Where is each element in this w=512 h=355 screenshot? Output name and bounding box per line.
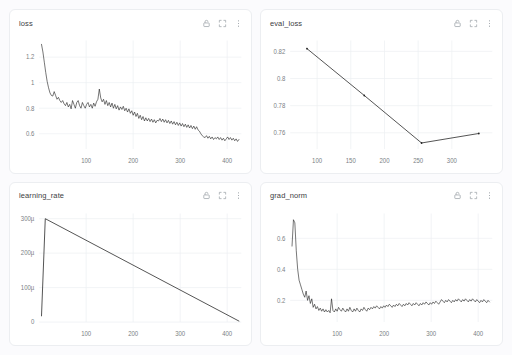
panel-grid: loss (0, 0, 512, 355)
expand-icon[interactable] (217, 190, 228, 201)
panel-header: eval_loss (261, 10, 502, 32)
svg-text:400: 400 (473, 329, 483, 336)
panel-actions (201, 18, 244, 29)
svg-text:300: 300 (447, 157, 457, 164)
svg-text:0: 0 (31, 318, 35, 325)
svg-text:0.6: 0.6 (277, 234, 286, 241)
panel-title: eval_loss (270, 19, 302, 28)
metrics-dashboard: loss (0, 0, 512, 355)
svg-text:300µ: 300µ (21, 214, 35, 222)
panel-header: grad_norm (261, 183, 502, 205)
panel-actions (452, 190, 495, 201)
panel-header: learning_rate (10, 183, 251, 205)
svg-text:200: 200 (128, 157, 138, 164)
more-vertical-icon[interactable] (484, 190, 495, 201)
svg-text:0.78: 0.78 (274, 102, 286, 109)
panel-title: learning_rate (19, 191, 64, 200)
svg-text:300: 300 (175, 157, 185, 164)
svg-text:0.8: 0.8 (277, 75, 286, 82)
panel-actions (452, 18, 495, 29)
svg-text:300: 300 (175, 329, 185, 336)
panel-loss[interactable]: loss (9, 9, 252, 174)
panel-title: grad_norm (270, 191, 307, 200)
expand-icon[interactable] (468, 190, 479, 201)
expand-icon[interactable] (217, 18, 228, 29)
more-vertical-icon[interactable] (233, 18, 244, 29)
panel-grad-norm[interactable]: grad_norm (260, 182, 503, 347)
svg-text:0.4: 0.4 (277, 265, 286, 272)
plot-area-grad-norm[interactable]: 0.60.40.2100200300400 (261, 205, 502, 346)
svg-text:100: 100 (332, 329, 342, 336)
lock-icon[interactable] (452, 190, 463, 201)
svg-text:1: 1 (31, 79, 35, 86)
more-vertical-icon[interactable] (233, 190, 244, 201)
svg-text:1.2: 1.2 (26, 53, 35, 60)
svg-text:400: 400 (222, 329, 232, 336)
svg-text:0.76: 0.76 (274, 129, 286, 136)
more-vertical-icon[interactable] (484, 18, 495, 29)
lock-icon[interactable] (452, 18, 463, 29)
panel-learning-rate[interactable]: learning_rate (9, 182, 252, 347)
svg-text:0.82: 0.82 (274, 47, 286, 54)
panel-eval-loss[interactable]: eval_loss (260, 9, 503, 174)
lock-icon[interactable] (201, 18, 212, 29)
expand-icon[interactable] (468, 18, 479, 29)
svg-text:400: 400 (222, 157, 232, 164)
svg-text:200µ: 200µ (21, 249, 35, 257)
panel-actions (201, 190, 244, 201)
lock-icon[interactable] (201, 190, 212, 201)
plot-area-loss[interactable]: 1.210.80.6100200300400 (10, 32, 251, 173)
plot-area-eval-loss[interactable]: 0.820.80.780.76100150200250300 (261, 32, 502, 173)
svg-text:200: 200 (379, 329, 389, 336)
svg-text:150: 150 (346, 157, 356, 164)
svg-text:100: 100 (81, 157, 91, 164)
svg-text:200: 200 (128, 329, 138, 336)
svg-text:0.2: 0.2 (277, 296, 286, 303)
svg-text:100µ: 100µ (21, 283, 35, 291)
svg-text:0.6: 0.6 (26, 130, 35, 137)
svg-text:250: 250 (413, 157, 423, 164)
plot-area-learning-rate[interactable]: 300µ200µ100µ0100200300400 (10, 205, 251, 346)
panel-header: loss (10, 10, 251, 32)
svg-text:0.8: 0.8 (26, 104, 35, 111)
svg-text:100: 100 (81, 329, 91, 336)
svg-text:300: 300 (426, 329, 436, 336)
svg-text:200: 200 (379, 157, 389, 164)
svg-text:100: 100 (312, 157, 322, 164)
panel-title: loss (19, 19, 33, 28)
